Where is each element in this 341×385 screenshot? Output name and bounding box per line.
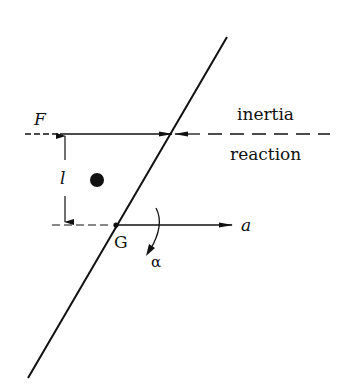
label-inertia: inertia	[237, 104, 294, 124]
label-g: G	[114, 232, 128, 252]
label-reaction: reaction	[230, 144, 301, 164]
label-f: F	[33, 109, 47, 129]
mass-dot	[90, 173, 104, 187]
slanted-rod	[28, 37, 227, 378]
free-body-diagram: F inertia reaction l G a α	[0, 0, 341, 385]
g-point	[113, 222, 118, 227]
label-a: a	[241, 215, 251, 235]
label-l: l	[60, 168, 65, 188]
label-alpha: α	[151, 253, 161, 271]
alpha-curved-arrow	[150, 208, 159, 250]
